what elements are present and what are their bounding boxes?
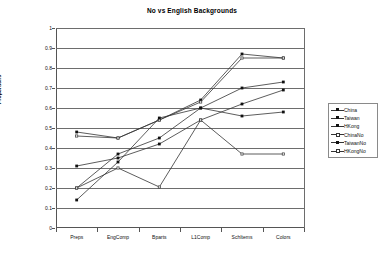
legend-label: China	[344, 107, 357, 113]
legend-label: Taiwan	[344, 115, 360, 121]
series-marker	[158, 186, 160, 188]
y-tick-label: 0.6	[26, 106, 52, 111]
series-line	[77, 58, 284, 138]
legend-item-hkongno[interactable]: HKongNo	[331, 147, 375, 155]
y-tick-label: 0.8	[26, 66, 52, 71]
series-marker	[117, 157, 120, 160]
series-marker	[199, 107, 202, 110]
y-tick-mark	[52, 228, 55, 229]
y-tick-label: 0.9	[26, 46, 52, 51]
y-axis-title: Proportions	[0, 75, 2, 104]
series-marker	[241, 53, 244, 56]
legend-swatch-icon	[331, 147, 344, 155]
y-tick-mark	[52, 48, 55, 49]
x-tick-mark	[97, 228, 98, 232]
series-marker	[76, 187, 78, 189]
series-line	[77, 120, 284, 188]
y-tick-mark	[52, 108, 55, 109]
series-marker	[282, 89, 285, 92]
plot-area	[56, 28, 304, 228]
chart-screenshot: No vs English Backgrounds Proportions 00…	[0, 0, 384, 255]
series-line	[77, 82, 284, 188]
y-tick-mark	[52, 188, 55, 189]
series-marker	[76, 135, 78, 137]
series-marker	[241, 57, 243, 59]
x-tick-mark	[221, 228, 222, 232]
series-marker	[282, 81, 285, 84]
legend-swatch-icon	[331, 106, 344, 114]
series-marker	[117, 167, 119, 169]
series-marker	[117, 153, 120, 156]
series-marker	[241, 115, 244, 118]
series-marker	[200, 101, 202, 103]
legend-item-china[interactable]: China	[331, 106, 375, 114]
y-tick-label: 1	[26, 26, 52, 31]
y-tick-label: 0.5	[26, 126, 52, 131]
legend-swatch-icon	[331, 114, 344, 122]
series-marker	[75, 131, 78, 134]
series-line	[77, 54, 284, 138]
y-tick-label: 0	[26, 226, 52, 231]
legend-swatch-icon	[331, 131, 344, 139]
legend-swatch-icon	[331, 122, 344, 130]
legend-item-hkong[interactable]: HKong	[331, 122, 375, 130]
y-tick-mark	[52, 88, 55, 89]
legend-label: HKong	[344, 123, 359, 129]
plot-right-edge	[304, 28, 305, 228]
y-axis-tick-labels: 00.10.20.30.40.50.60.70.80.91	[22, 28, 52, 228]
x-axis: PrepsEngCompBpartsL1CompSchItemsColors	[56, 228, 304, 248]
x-tick-mark	[304, 228, 305, 232]
y-tick-mark	[52, 168, 55, 169]
legend-item-chinano[interactable]: ChinaNo	[331, 131, 375, 139]
series-marker	[75, 165, 78, 168]
series-marker	[200, 119, 202, 121]
series-marker	[241, 103, 244, 106]
legend-item-taiwan[interactable]: Taiwan	[331, 114, 375, 122]
x-tick-mark	[263, 228, 264, 232]
series-marker	[117, 137, 119, 139]
y-tick-mark	[52, 128, 55, 129]
series-marker	[282, 111, 285, 114]
series-marker	[117, 161, 120, 164]
series-marker	[158, 117, 161, 120]
series-marker	[158, 137, 161, 140]
y-tick-mark	[52, 208, 55, 209]
y-tick-label: 0.1	[26, 206, 52, 211]
legend-label: ChinaNo	[344, 132, 363, 138]
series-marker	[158, 143, 161, 146]
y-tick-mark	[52, 148, 55, 149]
y-tick-label: 0.7	[26, 86, 52, 91]
chart-title: No vs English Backgrounds	[0, 7, 384, 14]
y-tick-mark	[52, 28, 55, 29]
series-marker	[282, 153, 284, 155]
y-tick-label: 0.3	[26, 166, 52, 171]
series-line	[77, 90, 284, 166]
legend-label: TaiwanNo	[344, 140, 366, 146]
series-marker	[241, 153, 243, 155]
legend-swatch-icon	[331, 139, 344, 147]
y-tick-label: 0.4	[26, 146, 52, 151]
legend-label: HKongNo	[344, 148, 366, 154]
x-tick-label: Colors	[258, 234, 308, 240]
x-tick-mark	[139, 228, 140, 232]
series-lines	[56, 28, 304, 228]
legend-item-taiwanno[interactable]: TaiwanNo	[331, 139, 375, 147]
series-marker	[75, 199, 78, 202]
chart-legend: ChinaTaiwanHKongChinaNoTaiwanNoHKongNo	[328, 103, 378, 158]
series-marker	[241, 87, 244, 90]
y-tick-label: 0.2	[26, 186, 52, 191]
x-tick-mark	[180, 228, 181, 232]
x-tick-mark	[56, 228, 57, 232]
series-marker	[282, 57, 284, 59]
y-tick-mark	[52, 68, 55, 69]
